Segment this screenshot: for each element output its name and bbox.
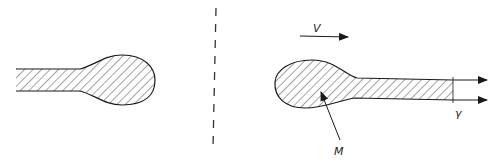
mass-label: M [334,145,344,158]
jet-arrows: γ [453,80,487,120]
velocity-arrow: V [300,22,348,37]
velocity-label: V [313,22,322,35]
left-drop [16,55,155,105]
dividing-line [213,8,216,148]
right-drop [275,60,453,108]
surface-tension-label: γ [455,107,462,120]
diagram-canvas: V γ M [0,0,502,167]
